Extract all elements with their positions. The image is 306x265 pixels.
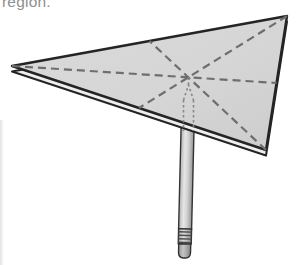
caption-text: region.: [2, 0, 51, 11]
pencil-eraser: [178, 244, 190, 258]
figure-canvas: region.: [0, 0, 306, 265]
centroid-balance-diagram: [0, 0, 306, 265]
